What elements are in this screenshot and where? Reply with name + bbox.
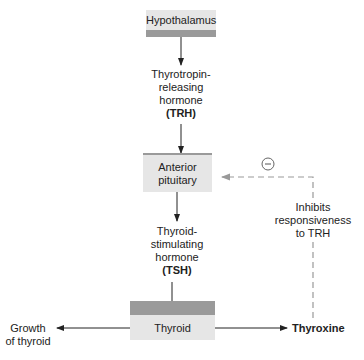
feedback-dashed-line: [222, 177, 313, 318]
hypothalamus-box: Hypothalamus: [146, 10, 216, 37]
growth-label: Growthof thyroid: [0, 322, 56, 348]
hypothalamus-label: Hypothalamus: [146, 14, 216, 26]
thyroxine-label: Thyroxine: [292, 322, 362, 335]
inhibit-label: Inhibitsresponsivenessto TRH: [263, 201, 363, 240]
thyroid-box: Thyroid: [130, 301, 215, 340]
anterior-pituitary-box: Anteriorpituitary: [143, 153, 212, 192]
tsh-label: Thyroid-stimulatinghormone(TSH): [127, 225, 227, 277]
trh-label: Thyrotropin-releasinghormone(TRH): [131, 68, 231, 120]
